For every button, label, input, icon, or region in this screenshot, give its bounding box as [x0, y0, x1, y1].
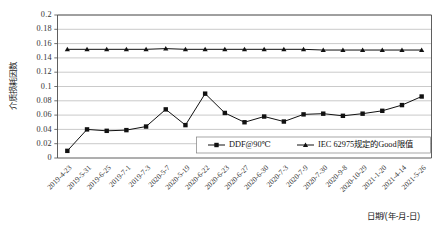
- legend-marker: [214, 143, 218, 147]
- data-point-marker: [341, 114, 345, 118]
- y-axis-title: 介质损耗因数: [8, 61, 18, 110]
- y-tick-label: 0.14: [36, 53, 52, 62]
- data-point-marker: [203, 91, 207, 95]
- data-point-marker: [85, 127, 89, 131]
- data-point-marker: [105, 129, 109, 133]
- y-tick-label: 0.04: [36, 125, 52, 134]
- legend: DDF@90℃IEC 62975规定的Good限值: [197, 137, 431, 153]
- legend-label: DDF@90℃: [229, 140, 271, 149]
- y-tick-label: 0.1: [41, 82, 52, 91]
- data-point-marker: [65, 149, 69, 153]
- data-point-marker: [282, 119, 286, 123]
- y-tick-label: 0.08: [36, 96, 52, 105]
- y-tick-label: 0.02: [36, 139, 52, 148]
- y-axis-ticks: [54, 15, 57, 158]
- data-point-marker: [301, 112, 305, 116]
- legend-label: IEC 62975规定的Good限值: [318, 139, 413, 149]
- data-point-marker: [400, 103, 404, 107]
- y-tick-label: 0.06: [36, 110, 52, 119]
- chart-container: 00.020.040.060.080.10.120.140.160.180.2 …: [0, 0, 441, 231]
- data-point-marker: [124, 128, 128, 132]
- x-axis-tick-labels: 2019-4-232019-5-312019-6-252019-7-12019-…: [45, 163, 428, 194]
- data-point-marker: [242, 120, 246, 124]
- x-axis-title: 日期/(年-月-日): [367, 211, 421, 221]
- series-2: [65, 46, 425, 52]
- y-tick-label: 0.12: [36, 67, 52, 76]
- data-point-marker: [164, 107, 168, 111]
- data-point-marker: [223, 111, 227, 115]
- data-point-marker: [183, 123, 187, 127]
- data-point-marker: [360, 111, 364, 115]
- y-tick-label: 0.16: [36, 39, 52, 48]
- y-tick-label: 0: [48, 153, 52, 162]
- y-tick-label: 0.18: [36, 24, 52, 33]
- data-point-marker: [321, 111, 325, 115]
- dielectric-dissipation-factor-chart: 00.020.040.060.080.10.120.140.160.180.2 …: [0, 0, 441, 231]
- data-point-marker: [419, 94, 423, 98]
- data-point-marker: [262, 114, 266, 118]
- y-tick-label: 0.2: [41, 10, 52, 19]
- y-axis-tick-labels: 00.020.040.060.080.10.120.140.160.180.2: [36, 10, 52, 162]
- data-point-marker: [144, 124, 148, 128]
- data-point-marker: [380, 109, 384, 113]
